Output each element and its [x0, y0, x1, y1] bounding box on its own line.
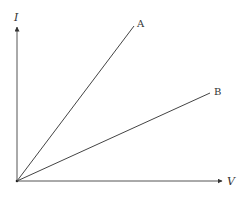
y-axis-label: I — [13, 11, 19, 24]
line-a — [17, 26, 134, 181]
iv-graph: I V A B — [0, 0, 246, 205]
line-b — [17, 93, 210, 181]
line-b-label: B — [214, 86, 221, 97]
line-a-label: A — [136, 18, 145, 29]
x-axis-label: V — [227, 175, 236, 188]
